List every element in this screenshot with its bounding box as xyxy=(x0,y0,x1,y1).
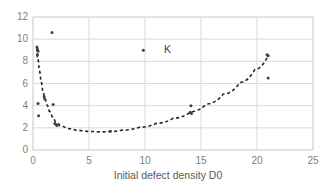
trendline-path xyxy=(36,48,268,132)
x-tick-4: 20 xyxy=(242,156,272,166)
x-tick-1: 5 xyxy=(74,156,104,166)
y-tick-5: 10 xyxy=(4,34,28,44)
data-point xyxy=(56,124,59,127)
data-point xyxy=(37,102,40,105)
data-point xyxy=(189,104,192,107)
y-tick-4: 8 xyxy=(4,56,28,66)
x-tick-5: 25 xyxy=(298,156,328,166)
data-point xyxy=(37,50,40,53)
data-point xyxy=(51,31,54,34)
data-point xyxy=(37,114,40,117)
chart-plot-area xyxy=(0,0,336,191)
data-points-group xyxy=(35,31,269,133)
x-tick-3: 15 xyxy=(186,156,216,166)
y-tick-2: 4 xyxy=(4,101,28,111)
data-point xyxy=(52,103,55,106)
data-point xyxy=(109,130,112,133)
x-axis-title: Initial defect density D0 xyxy=(0,170,336,181)
y-tick-6: 12 xyxy=(4,12,28,22)
data-point xyxy=(190,112,193,115)
x-tick-0: 0 xyxy=(18,156,48,166)
y-tick-3: 6 xyxy=(4,79,28,89)
chart-container: 0 2 4 6 8 10 12 0 5 10 15 20 25 Initial … xyxy=(0,0,336,191)
data-point xyxy=(36,53,39,56)
y-tick-1: 2 xyxy=(4,123,28,133)
data-point xyxy=(43,98,46,101)
series-annotation-k: K xyxy=(164,44,171,55)
data-point xyxy=(267,76,270,79)
y-tick-0: 0 xyxy=(4,145,28,155)
data-point xyxy=(142,49,145,52)
data-point xyxy=(267,54,270,57)
x-tick-2: 10 xyxy=(130,156,160,166)
